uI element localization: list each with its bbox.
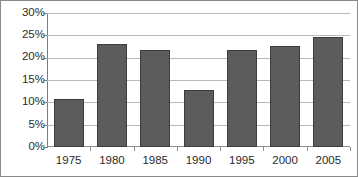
y-axis-label-5: 5% [0,119,45,130]
bar-2000 [270,46,300,147]
bar-chart: 30% 25% 20% 15% 10% 5% 0% [0,0,358,177]
x-tick-1 [134,147,135,151]
bar-1975 [54,99,84,147]
bar-1985 [140,50,170,147]
bar-2005 [313,37,343,147]
bar-1995 [227,50,257,147]
x-tick-6 [350,147,351,151]
y-axis-label-15: 15% [0,74,45,85]
y-axis-label-10: 10% [0,96,45,107]
gridline-20 [47,58,350,59]
y-axis-label-30: 30% [0,7,45,18]
gridline-15 [47,80,350,81]
y-axis-label-25: 25% [0,29,45,40]
x-tick-5 [307,147,308,151]
x-tick-4 [263,147,264,151]
y-axis-label-0: 0% [0,141,45,152]
x-tick-2 [177,147,178,151]
gridline-30 [47,13,350,14]
bar-1980 [97,44,127,147]
plot-area [47,13,350,147]
gridline-25 [47,35,350,36]
x-axis-label-2005: 2005 [298,154,358,166]
bar-1990 [184,90,214,147]
y-axis-label-20: 20% [0,51,45,62]
x-tick-0 [90,147,91,151]
x-tick-3 [220,147,221,151]
